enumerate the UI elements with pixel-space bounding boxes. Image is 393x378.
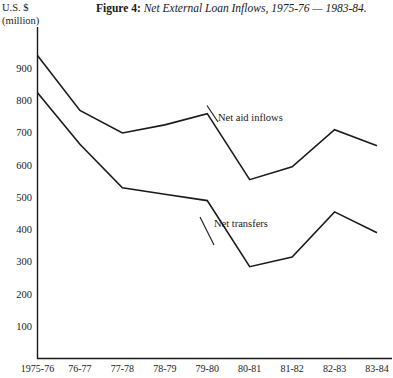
transfers-annotation-leader [200,217,214,245]
y-axis-tick-400: 400 [2,224,32,235]
y-axis-tick-500: 500 [2,192,32,203]
y-axis-tick-700: 700 [2,127,32,138]
x-axis-tick-76-77: 76-77 [68,363,91,374]
x-axis-tick-79-80: 79-80 [196,363,219,374]
y-axis-tick-300: 300 [2,256,32,267]
x-axis-tick-81-82: 81-82 [280,363,303,374]
x-axis-tick-78-79: 78-79 [153,363,176,374]
series-annotation-net-transfers: Net transfers [214,218,268,229]
y-axis-tick-100: 100 [2,321,32,332]
chart-axes [38,27,393,359]
x-axis-tick-77-78: 77-78 [111,363,134,374]
x-axis-tick-1975-76: 1975-76 [21,363,54,374]
y-axis-tick-600: 600 [2,160,32,171]
x-axis-tick-80-81: 80-81 [238,363,261,374]
x-axis-tick-83-84: 83-84 [365,363,388,374]
y-axis-tick-900: 900 [2,63,32,74]
y-axis-tick-200: 200 [2,289,32,300]
series-annotation-net-aid-inflows: Net aid inflows [218,112,283,123]
figure-root: Figure 4: Net External Loan Inflows, 197… [0,0,393,378]
aid-annotation-leader [207,106,218,123]
x-axis-tick-82-83: 82-83 [323,363,346,374]
plot-area: 100200300400500600700800900 1975-7676-77… [0,0,393,378]
series-line-net-aid-inflows [38,56,378,180]
line-chart-svg [0,0,393,378]
series-line-net-transfers [38,93,378,267]
y-axis-tick-800: 800 [2,95,32,106]
